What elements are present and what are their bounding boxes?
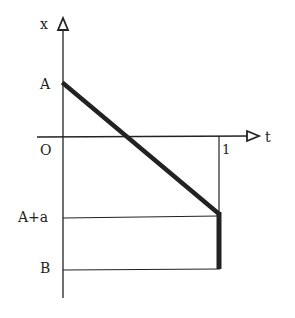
y-axis-arrow-icon [58,18,68,30]
level-B-line [63,269,220,270]
label-A: A [39,76,51,92]
t-axis-arrow-icon [247,131,259,141]
y-axis-label: x [40,16,48,32]
t-one-label: 1 [222,142,230,157]
t-axis [37,136,250,137]
origin-label: O [40,142,51,158]
t-axis-label: t [265,129,271,145]
descending-line [64,84,218,213]
label-A-plus-a: A+a [17,209,48,225]
level-A-plus-a-line [63,216,219,218]
label-B: B [40,260,50,276]
diagram: x t O 1 A A+a B [0,0,295,318]
